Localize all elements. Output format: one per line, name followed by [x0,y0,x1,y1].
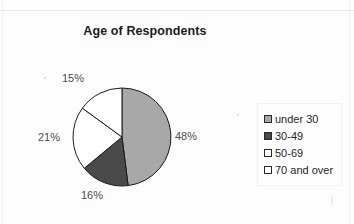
legend-label-70-and-over: 70 and over [275,164,333,176]
legend-item-under-30[interactable]: under 30 [264,110,337,127]
scan-artifact-right-line [349,0,350,224]
legend-swatch-70-and-over-icon [264,166,272,174]
legend-label-30-49: 30-49 [275,130,303,142]
pie-label-70-and-over: 15% [62,72,84,84]
legend-swatch-under-30-icon [264,115,272,123]
chart-page: Age of Respondents 48% 16% 21% 15% under… [0,0,354,224]
pie-slice-group [73,88,171,186]
pie-chart-area: 48% 16% 21% 15% [0,0,250,224]
legend-swatch-30-49-icon [264,132,272,140]
legend-item-30-49[interactable]: 30-49 [264,127,337,144]
pie-chart-svg [0,0,250,224]
chart-legend: under 30 30-49 50-69 70 and over [257,103,342,186]
legend-swatch-50-69-icon [264,149,272,157]
pie-label-under-30: 48% [175,130,197,142]
legend-item-50-69[interactable]: 50-69 [264,144,337,161]
scan-speck-c [331,196,333,205]
pie-slice-under-30[interactable] [122,88,171,186]
pie-label-30-49: 16% [81,189,103,201]
legend-item-70-and-over[interactable]: 70 and over [264,161,337,178]
legend-label-under-30: under 30 [275,113,318,125]
pie-label-50-69: 21% [38,131,60,143]
legend-label-50-69: 50-69 [275,147,303,159]
